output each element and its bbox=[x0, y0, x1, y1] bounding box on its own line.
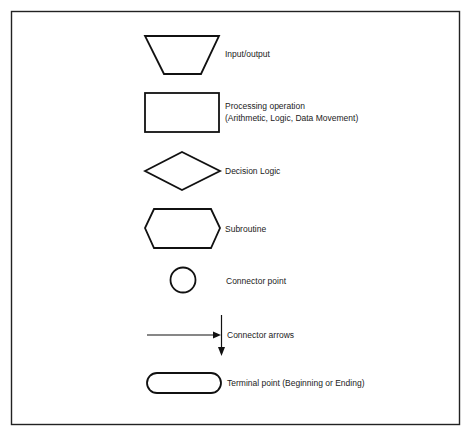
legend-frame bbox=[12, 12, 460, 425]
hexagon-symbol bbox=[145, 209, 220, 248]
input-output-label: Input/output bbox=[225, 49, 271, 59]
flowchart-symbol-legend: Input/output Processing operation (Arith… bbox=[0, 0, 469, 435]
rectangle-symbol bbox=[145, 93, 219, 132]
right-arrowhead-icon bbox=[213, 332, 221, 339]
legend-item-subroutine: Subroutine bbox=[145, 209, 266, 248]
legend-item-decision: Decision Logic bbox=[145, 152, 281, 190]
legend-item-connector-arrows: Connector arrows bbox=[147, 315, 294, 356]
down-arrowhead-icon bbox=[218, 347, 225, 356]
subroutine-label: Subroutine bbox=[225, 224, 266, 234]
decision-label: Decision Logic bbox=[225, 166, 281, 176]
circle-symbol bbox=[171, 268, 196, 293]
processing-label: Processing operation bbox=[225, 101, 305, 111]
connector-arrows-label: Connector arrows bbox=[227, 330, 294, 340]
legend-item-processing: Processing operation (Arithmetic, Logic,… bbox=[145, 93, 358, 132]
legend-item-input-output: Input/output bbox=[145, 36, 271, 74]
legend-item-terminal: Terminal point (Beginning or Ending) bbox=[147, 373, 365, 393]
connector-point-label: Connector point bbox=[226, 276, 287, 286]
terminal-symbol bbox=[147, 373, 221, 393]
terminal-label: Terminal point (Beginning or Ending) bbox=[227, 378, 365, 388]
diamond-symbol bbox=[145, 152, 220, 190]
trapezoid-symbol bbox=[145, 36, 219, 74]
processing-sublabel: (Arithmetic, Logic, Data Movement) bbox=[225, 113, 358, 123]
legend-item-connector-point: Connector point bbox=[171, 268, 287, 293]
